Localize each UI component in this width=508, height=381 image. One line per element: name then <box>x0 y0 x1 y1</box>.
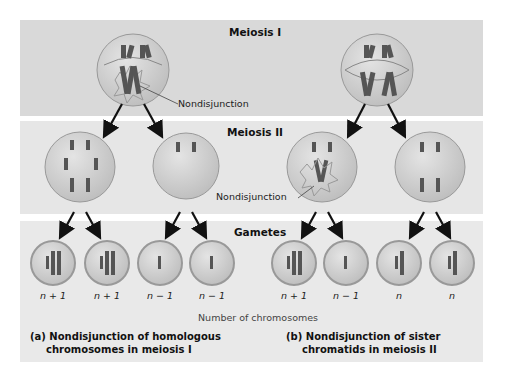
meiosis-2-title: Meiosis II <box>227 126 283 138</box>
cell-meiosis1-b <box>341 34 413 106</box>
cell-meiosis1-a <box>97 34 178 106</box>
count-label: n <box>432 290 472 301</box>
caption-a-line2: chromosomes in meiosis I <box>30 343 221 356</box>
count-label: n − 1 <box>192 290 232 301</box>
gametes-title: Gametes <box>234 226 286 238</box>
nondisjunction-label-a: Nondisjunction <box>178 98 249 109</box>
nondisjunction-label-b: Nondisjunction <box>216 191 287 202</box>
caption-b: (b) Nondisjunction of sister chromatids … <box>286 330 440 356</box>
count-label: n − 1 <box>140 290 180 301</box>
caption-b-line2: chromatids in meiosis II <box>286 343 440 356</box>
caption-a: (a) Nondisjunction of homologous chromos… <box>30 330 221 356</box>
caption-a-line1: (a) Nondisjunction of homologous <box>30 330 221 343</box>
count-label: n + 1 <box>87 290 127 301</box>
meiosis-1-title: Meiosis I <box>229 26 281 38</box>
caption-b-line1: (b) Nondisjunction of sister <box>286 330 440 343</box>
axis-label: Number of chromosomes <box>198 312 318 323</box>
count-label: n − 1 <box>326 290 366 301</box>
gamete-cells <box>31 241 474 285</box>
count-label: n <box>379 290 419 301</box>
count-label: n + 1 <box>33 290 73 301</box>
count-label: n + 1 <box>274 290 314 301</box>
